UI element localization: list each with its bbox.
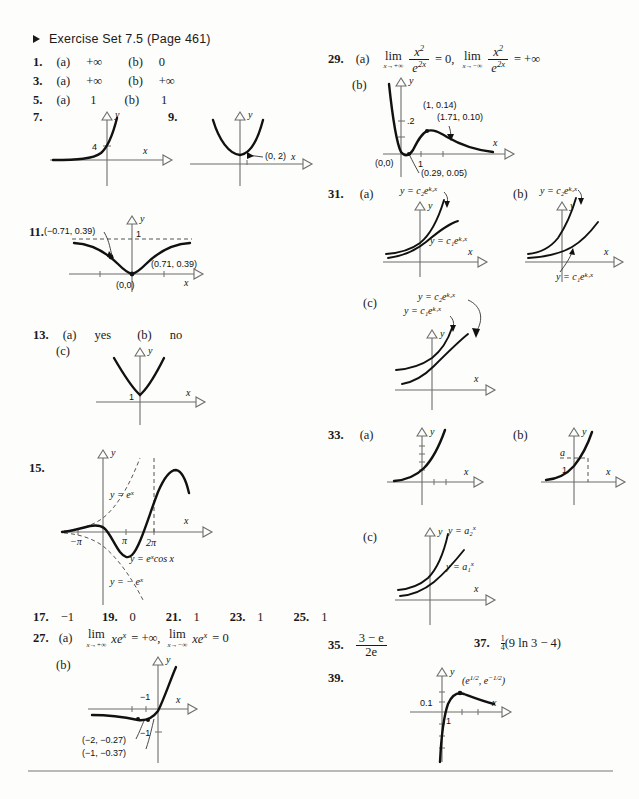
- answer-37: 37. 1 4 (9 ln 3 − 4): [474, 635, 561, 652]
- answer-17-number: 17.: [33, 610, 49, 625]
- answer-15-neg-exp-curve-label: y = − ex: [109, 576, 144, 587]
- answer-29-part-b-label-wrap: (b): [352, 75, 367, 93]
- answer-7-y-mark: 4: [92, 142, 97, 152]
- answer-3-part-a-label: (a): [56, 74, 70, 88]
- answer-7-number-wrap: 7.: [33, 107, 42, 125]
- answer-11-origin-label: (0,0): [116, 280, 135, 290]
- answer-5-part-b-label: (b): [125, 93, 140, 107]
- answer-11-number-wrap: 11.: [29, 222, 44, 240]
- answer-31c-curve-2-label: y = c₂ek₂x: [417, 291, 456, 302]
- answer-1-part-b-value: 0: [159, 55, 165, 69]
- answer-33b-a-mark: a: [560, 447, 565, 458]
- answer-3-number: 3.: [33, 74, 42, 88]
- answer-15-graph: y x −π π 2π y = ex y = − ex y = excos x: [58, 440, 288, 605]
- answer-1-part-b-label: (b): [128, 55, 143, 69]
- answer-27-point-1-label: (−2, −0.27): [82, 735, 126, 745]
- answer-39-number-wrap: 39.: [328, 668, 344, 686]
- answer-29-y-mark: .2: [407, 116, 415, 126]
- answer-33-part-b-label: (b): [513, 428, 528, 442]
- answer-27-part-b-label: (b): [56, 658, 71, 672]
- section-header: Exercise Set 7.5 (Page 461): [33, 32, 211, 46]
- answer-29-graph: y x .2 1 (1, 0.14) (1.71, 0.10) (0,0) (0…: [375, 72, 585, 177]
- answer-27-part-a-label: (a): [59, 631, 73, 646]
- answer-15-tick-2pi: 2π: [146, 537, 157, 548]
- answer-5-part-a-label: (a): [56, 93, 70, 107]
- answer-27-point-2-label: (−1, −0.37): [82, 748, 126, 758]
- answer-33-part-c-label-wrap: (c): [363, 527, 377, 545]
- answer-13-y-label: y: [147, 345, 153, 356]
- answer-33a-y-label: y: [429, 426, 435, 437]
- answer-13-y-mark: 1: [129, 392, 134, 402]
- answer-39-number: 39.: [328, 671, 344, 685]
- answer-1-part-a-value: +∞: [86, 55, 102, 69]
- answer-31a-y-label: y: [427, 200, 433, 211]
- answer-29-limit-2-sub: x→−∞: [462, 63, 482, 70]
- answer-27-y-mark: −1: [140, 728, 150, 738]
- answer-11-y-label: y: [139, 213, 145, 224]
- answer-19-value: 0: [130, 610, 136, 625]
- answer-27-graph: y x −1 −1 (−2, −0.27) (−1, −0.37): [80, 653, 280, 763]
- answer-29-limit-2-result: = +∞: [514, 52, 540, 67]
- answer-31a-curve-1-label: y = c₁ek₁x: [429, 235, 468, 246]
- answer-15-number: 15.: [29, 461, 45, 475]
- answer-27-limit-1-result: = +∞,: [131, 631, 160, 646]
- answer-21-value: 1: [193, 610, 199, 625]
- answer-27-limit-2-result: = 0: [212, 631, 228, 646]
- answer-39-x-mark: 1: [446, 716, 451, 726]
- answer-35-fraction: 3 − e 2e: [356, 632, 387, 659]
- answer-33-graph-c: y x y = a₂x y = a₁x: [390, 520, 560, 625]
- answer-15-tick-pi: π: [122, 535, 128, 546]
- answer-7-number: 7.: [33, 110, 42, 124]
- answer-29-limit-2: lim x→−∞: [462, 50, 482, 71]
- answer-31c-curve-1-label: y = c₁ek₁x: [403, 305, 442, 316]
- answer-31-part-c-label: (c): [363, 296, 377, 310]
- answer-7-x-label: x: [142, 145, 148, 156]
- answer-15-tick-neg-pi: −π: [70, 536, 83, 547]
- answer-13-part-c-label: (c): [56, 344, 70, 358]
- answer-27-limit-1-op: lim: [87, 628, 107, 641]
- answer-11-number: 11.: [29, 225, 44, 239]
- answer-9-x-label: x: [290, 151, 296, 162]
- answer-11-graph: y x 1 (−0.71, 0.39) (0.71, 0.39) (0,0): [44, 212, 259, 292]
- answer-9-number-wrap: 9.: [168, 107, 177, 125]
- answer-5-number: 5.: [33, 93, 42, 107]
- answer-3-part-b-value: +∞: [159, 74, 175, 88]
- answer-9-graph: y x (0, 2): [185, 108, 330, 186]
- answer-33a-x-label: x: [463, 466, 469, 477]
- answer-key-page: Exercise Set 7.5 (Page 461) 1. (a) +∞ (b…: [0, 0, 639, 799]
- answer-19-number: 19.: [102, 610, 118, 625]
- answer-27-x-mark: −1: [140, 692, 150, 702]
- triangle-right-icon: [33, 35, 40, 43]
- answer-31-part-a-label: (a): [360, 187, 374, 201]
- answer-33b-x-label: x: [605, 466, 611, 477]
- answer-3-part-b-label: (b): [128, 74, 143, 88]
- answer-37-number: 37.: [474, 636, 490, 651]
- answer-33-part-b-label-wrap: (b): [513, 425, 528, 443]
- answer-31-number: 31.: [328, 187, 344, 201]
- answer-33-graph-b: y x a 1: [538, 420, 639, 505]
- answer-39-point-label: (e1/2, e−1/2): [462, 674, 506, 687]
- answer-29-fraction-2: x2 e2x: [488, 44, 508, 76]
- answer-39-y-mark: 0.1: [420, 698, 433, 708]
- answer-29-fraction-2-num: x2: [488, 44, 508, 60]
- answer-33c-x-label: x: [473, 583, 479, 594]
- answer-3: 3. (a) +∞ (b) +∞: [33, 71, 175, 89]
- answer-27-y-label: y: [165, 654, 171, 665]
- answer-37-expression: (9 ln 3 − 4): [505, 636, 561, 651]
- answer-31b-curve-1-label: y = c₁ek₁x: [555, 271, 594, 282]
- answer-9-number: 9.: [168, 110, 177, 124]
- answer-29-fraction-1: x2 e2x: [409, 44, 429, 76]
- answer-15-main-curve-label: y = excos x: [129, 553, 175, 564]
- answer-15-number-wrap: 15.: [29, 458, 45, 476]
- answer-35: 35. 3 − e 2e: [328, 632, 387, 659]
- answer-29-fraction-1-num: x2: [409, 44, 429, 60]
- answer-1-number: 1.: [33, 55, 42, 69]
- answer-35-fraction-num: 3 − e: [356, 632, 387, 646]
- answer-29-number: 29.: [328, 52, 344, 67]
- answer-31a-x-label: x: [467, 246, 473, 257]
- answer-9-point-label: (0, 2): [265, 151, 286, 161]
- answer-5-part-a-value: 1: [90, 93, 96, 107]
- answer-33-number: 33.: [328, 428, 344, 442]
- answer-27-limit-1-expr: xex: [111, 630, 126, 647]
- answer-27-limit-2: lim x→−∞: [167, 628, 187, 649]
